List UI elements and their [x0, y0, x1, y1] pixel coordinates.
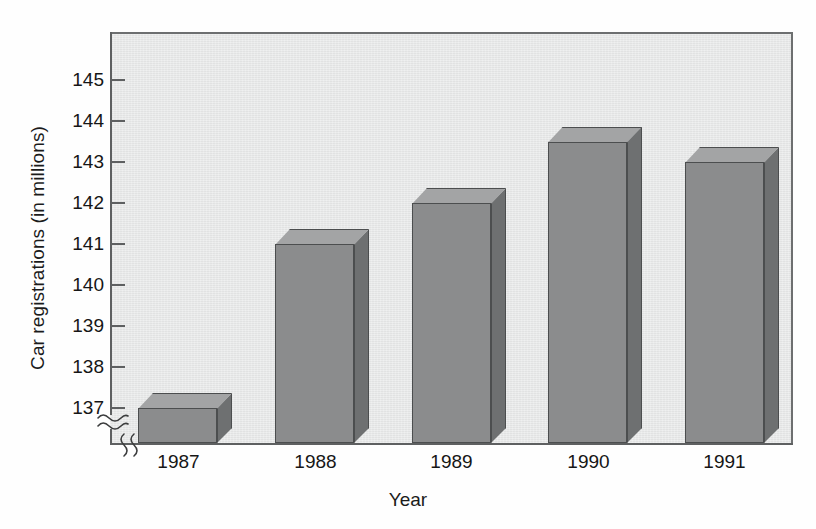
y-axis-tick-label-wrap: 138	[56, 367, 104, 368]
y-axis-tick-label-wrap: 140	[56, 285, 104, 286]
y-axis-tick-label-wrap: 145	[56, 80, 104, 81]
y-axis-tick-label: 144	[58, 111, 104, 130]
y-axis-title: Car registrations (in millions)	[27, 58, 49, 438]
y-axis-tick-label-wrap: 142	[56, 203, 104, 204]
y-axis-tick-label-wrap: 137	[56, 408, 104, 409]
bar-1987	[138, 393, 232, 443]
bar-side-face	[354, 229, 369, 443]
bar-1990	[548, 127, 642, 444]
x-axis-label-1989: 1989	[383, 452, 520, 471]
y-axis-tick-label: 145	[58, 70, 104, 89]
bar-top-face	[412, 188, 506, 204]
bar-1991	[685, 147, 779, 443]
bar-front-face	[685, 162, 764, 443]
y-axis-tick-mark	[112, 79, 125, 81]
bar-top-face	[548, 127, 642, 143]
y-axis-break-icon	[96, 411, 130, 433]
y-axis-tick-label-wrap: 139	[56, 326, 104, 327]
bar-side-face	[491, 188, 506, 443]
y-axis-tick-mark	[112, 120, 125, 122]
x-axis-label-1991: 1991	[656, 452, 793, 471]
y-axis-tick-label-wrap: 141	[56, 244, 104, 245]
x-axis-label-1987: 1987	[110, 452, 247, 471]
y-axis-tick-mark	[112, 366, 125, 368]
x-axis-label-1988: 1988	[247, 452, 384, 471]
y-axis-tick-label: 138	[58, 357, 104, 376]
bar-chart: Car registrations (in millions) 13713813…	[0, 0, 816, 529]
y-axis-tick-label: 141	[58, 234, 104, 253]
bar-front-face	[275, 244, 354, 443]
bar-1989	[412, 188, 506, 443]
y-axis-tick-label: 142	[58, 193, 104, 212]
y-axis-tick-mark	[112, 284, 125, 286]
bar-front-face	[548, 142, 627, 444]
y-axis-tick-mark	[112, 161, 125, 163]
y-axis-tick-mark	[112, 202, 125, 204]
bar-side-face	[627, 127, 642, 444]
bar-top-face	[275, 229, 369, 245]
bar-top-face	[685, 147, 779, 163]
x-axis-label-1990: 1990	[520, 452, 657, 471]
y-axis-tick-mark	[112, 407, 125, 409]
y-axis-tick-label: 140	[58, 275, 104, 294]
y-axis-tick-label: 139	[58, 316, 104, 335]
y-axis-tick-label-wrap: 144	[56, 121, 104, 122]
x-axis-line	[110, 443, 793, 445]
y-axis-line	[110, 32, 112, 415]
y-axis-tick-label-wrap: 143	[56, 162, 104, 163]
y-axis-tick-mark	[112, 243, 125, 245]
bar-front-face	[138, 408, 217, 443]
bar-1988	[275, 229, 369, 443]
y-axis-tick-label: 143	[58, 152, 104, 171]
x-axis-title: Year	[0, 489, 816, 511]
bar-front-face	[412, 203, 491, 443]
bar-top-face	[138, 393, 232, 409]
bar-side-face	[764, 147, 779, 443]
y-axis-tick-mark	[112, 325, 125, 327]
